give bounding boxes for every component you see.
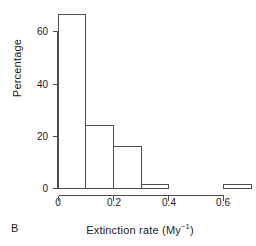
x-axis <box>59 196 224 201</box>
panel-label: B <box>11 222 18 234</box>
x-axis-label: Extinction rate (My−1) <box>40 224 240 236</box>
x-axis-label-base: Extinction rate (My <box>86 224 181 236</box>
histogram-bar-bin-2 <box>86 126 114 189</box>
y-axis <box>53 32 58 189</box>
x-axis-label-exponent: −1 <box>181 222 190 231</box>
histogram-bar-bin-4 <box>142 185 169 189</box>
histogram-bar-bin-1 <box>59 15 86 189</box>
plot-area <box>0 0 256 246</box>
histogram-bar-bin-3 <box>114 147 142 189</box>
histogram-figure: Percentage 0 20 40 60 0 0.2 0.4 0.6 <box>0 0 256 246</box>
histogram-bars <box>59 15 252 189</box>
histogram-bar-bin-7 <box>224 185 252 189</box>
x-axis-label-close: ) <box>190 224 194 236</box>
